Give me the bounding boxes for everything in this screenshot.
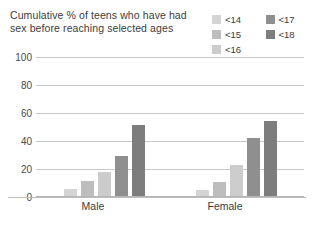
bar: [264, 121, 277, 196]
y-tick-label: 20: [2, 164, 32, 175]
legend-label: <15: [225, 29, 241, 40]
chart-legend: <14 <17 <15 <18 <16: [212, 12, 312, 57]
chart-card: Cumulative % of teens who have had sex b…: [0, 0, 314, 233]
bar: [115, 156, 128, 196]
bar-group-male: [64, 57, 145, 196]
legend-label: <14: [225, 14, 241, 25]
y-tick-label: 60: [2, 108, 32, 119]
bar: [213, 182, 226, 196]
legend-swatch-icon: [212, 45, 221, 54]
y-tick-label: 100: [2, 52, 32, 63]
bar-group-female: [196, 57, 277, 196]
axis-extension-line: [8, 197, 306, 198]
x-category-label-female: Female: [185, 200, 265, 212]
bar: [81, 181, 94, 196]
legend-label: <17: [279, 14, 295, 25]
chart-title: Cumulative % of teens who have had sex b…: [10, 9, 206, 35]
legend-item: <18: [266, 27, 313, 42]
legend-swatch-icon: [212, 30, 221, 39]
legend-swatch-icon: [212, 15, 221, 24]
y-tick-label: 40: [2, 136, 32, 147]
y-axis: 100 80 60 40 20 0: [0, 57, 32, 197]
legend-item: <16: [212, 42, 259, 57]
bar: [98, 172, 111, 196]
plot-area: [36, 57, 304, 197]
y-tick-label: 80: [2, 80, 32, 91]
bar: [230, 165, 243, 196]
legend-swatch-icon: [266, 30, 275, 39]
legend-label: <18: [279, 29, 295, 40]
legend-item: <14: [212, 12, 259, 27]
legend-swatch-icon: [266, 15, 275, 24]
bar: [132, 125, 145, 196]
legend-label: <16: [225, 44, 241, 55]
bar: [247, 138, 260, 196]
legend-item: <15: [212, 27, 259, 42]
bar: [64, 189, 77, 196]
x-category-label-male: Male: [53, 200, 133, 212]
legend-item: <17: [266, 12, 313, 27]
bar: [196, 190, 209, 196]
